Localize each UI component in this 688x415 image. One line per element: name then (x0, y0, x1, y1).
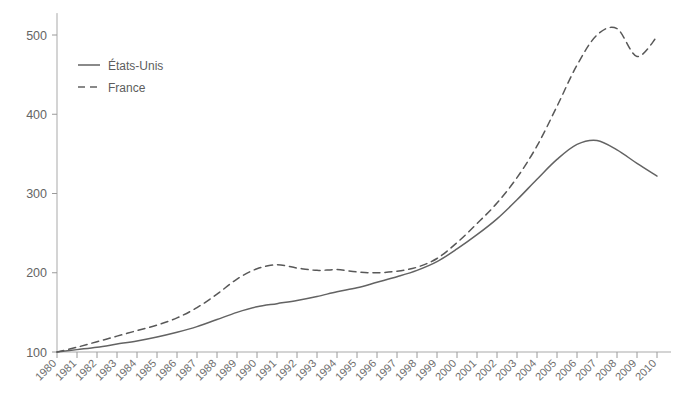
x-tick-label: 2009 (613, 357, 639, 383)
line-chart: 100200300400500 198019811982198319841985… (0, 0, 688, 415)
x-tick-label: 1980 (33, 357, 59, 383)
x-tick-label: 1981 (53, 357, 79, 383)
x-tick-label: 1983 (93, 357, 119, 383)
x-tick-label: 1982 (73, 357, 99, 383)
x-tick-label: 2008 (593, 357, 619, 383)
x-tick-label: 1986 (153, 357, 179, 383)
x-tick-label: 1984 (113, 357, 139, 383)
y-tick-label: 300 (26, 187, 47, 201)
series-lines (57, 27, 657, 352)
x-tick-label: 2001 (453, 357, 479, 383)
y-tick-label: 200 (26, 266, 47, 280)
x-tick-label: 1991 (253, 357, 279, 383)
x-tick-label: 2004 (513, 357, 539, 383)
x-tick-label: 1987 (173, 357, 199, 383)
y-tick-label: 400 (26, 108, 47, 122)
x-tick-label: 1996 (353, 357, 379, 383)
legend-label: France (108, 81, 146, 95)
x-tick-label: 2006 (553, 357, 579, 383)
x-axis: 1980198119821983198419851986198719881989… (33, 352, 671, 383)
x-tick-label: 1994 (313, 357, 339, 383)
series-line-france (57, 27, 657, 352)
x-tick-label: 2003 (493, 357, 519, 383)
y-axis: 100200300400500 (26, 13, 57, 359)
chart-legend: États-UnisFrance (78, 58, 163, 95)
x-tick-label: 2007 (573, 357, 599, 383)
x-tick-label: 1995 (333, 357, 359, 383)
x-tick-label: 1988 (193, 357, 219, 383)
x-tick-label: 2000 (433, 357, 459, 383)
x-tick-label: 1992 (273, 357, 299, 383)
series-line-tats-unis (57, 140, 657, 352)
x-tick-label: 1999 (413, 357, 439, 383)
x-tick-label: 2010 (633, 357, 659, 383)
chart-container: 100200300400500 198019811982198319841985… (0, 0, 688, 415)
x-tick-label: 2005 (533, 357, 559, 383)
x-tick-label: 2002 (473, 357, 499, 383)
x-tick-label: 1989 (213, 357, 239, 383)
legend-label: États-Unis (108, 58, 163, 73)
x-tick-label: 1985 (133, 357, 159, 383)
x-tick-label: 1990 (233, 357, 259, 383)
y-tick-label: 500 (26, 29, 47, 43)
x-tick-label: 1998 (393, 357, 419, 383)
y-tick-label: 100 (26, 346, 47, 360)
x-tick-label: 1997 (373, 357, 399, 383)
x-tick-label: 1993 (293, 357, 319, 383)
